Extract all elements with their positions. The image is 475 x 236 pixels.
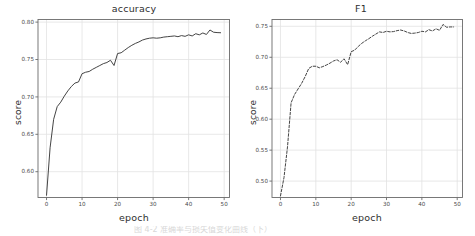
y-tick-label: 0.55 (248, 147, 268, 153)
y-tick-label: 0.65 (14, 131, 34, 137)
y-tick-label: 0.50 (248, 178, 268, 184)
y-tick-label: 0.60 (14, 168, 34, 174)
x-tick-label: 0 (37, 201, 57, 207)
y-axis-label-accuracy: score (13, 100, 23, 125)
x-tick-label: 30 (377, 201, 397, 207)
y-tick-label: 0.75 (14, 56, 34, 62)
y-tick-label: 0.70 (248, 54, 268, 60)
x-axis-label-f1: epoch (272, 212, 462, 223)
y-tick-label: 0.75 (248, 23, 268, 29)
y-tick-label: 0.60 (248, 116, 268, 122)
x-tick-label: 50 (447, 201, 467, 207)
x-tick-label: 50 (214, 201, 234, 207)
data-series-accuracy (47, 30, 221, 195)
x-tick-label: 20 (341, 201, 361, 207)
x-tick-label: 10 (306, 201, 326, 207)
y-tick-label: 0.65 (248, 85, 268, 91)
x-tick-label: 20 (108, 201, 128, 207)
figure-canvas: accuracy score epoch 010203040500.600.65… (0, 0, 475, 236)
y-tick-label: 0.80 (14, 19, 34, 25)
subplot-accuracy: accuracy score epoch 010203040500.600.65… (0, 0, 240, 236)
x-tick-label: 30 (143, 201, 163, 207)
data-series-f1 (280, 24, 453, 196)
x-tick-label: 40 (412, 201, 432, 207)
x-axis-label-accuracy: epoch (38, 212, 230, 223)
x-tick-label: 40 (179, 201, 199, 207)
y-tick-label: 0.70 (14, 94, 34, 100)
x-tick-label: 10 (72, 201, 92, 207)
x-tick-label: 0 (270, 201, 290, 207)
subplot-f1: F1 score epoch 010203040500.500.550.600.… (235, 0, 475, 236)
